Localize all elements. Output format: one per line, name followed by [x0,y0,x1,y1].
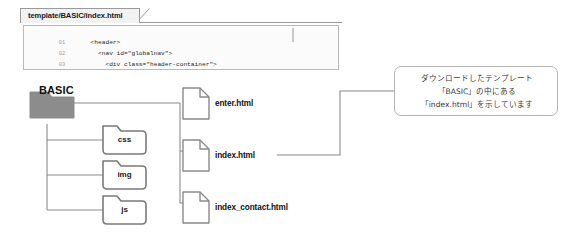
folder-label-css: css [103,135,146,144]
callout-leader-line [277,91,394,155]
code-line: 03 <div class="header-container"> [24,48,338,59]
file-label-enter-html: enter.html [215,99,253,108]
code-line: 04 <h1 class="logo"><a href="index.html"… [24,59,338,70]
folder-label-js: js [103,205,146,214]
callout-line-1: ダウンロードしたテンプレート [421,73,533,85]
callout-box: ダウンロードしたテンプレート 「BASIC」の中にある 「index.html」… [394,66,558,116]
file-icon-index-contact-html [183,192,209,223]
code-file-tab[interactable]: template/BASIC/index.html [20,8,140,23]
code-line: 02 <nav id="globalnav"> [24,37,338,48]
code-file-tab-label: template/BASIC/index.html [28,11,123,20]
diagram-screenshot: template/BASIC/index.html 01 <header> 02… [0,0,572,241]
folder-label-img: img [103,170,146,179]
code-panel: template/BASIC/index.html 01 <header> 02… [20,8,342,72]
callout-line-3: 「index.html」を示しています [421,99,534,111]
file-icon-index-html [183,140,209,171]
callout-text: ダウンロードしたテンプレート 「BASIC」の中にある 「index.html」… [395,67,559,117]
code-line: 01 <header> [24,26,338,37]
file-label-index-html: index.html [215,151,255,160]
tree-connector-lines [47,103,183,210]
callout-line-2: 「BASIC」の中にある [438,86,517,98]
file-label-index-contact-html: index_contact.html [215,203,288,212]
code-scrollbar[interactable] [292,28,294,42]
file-icon-enter-html [183,88,209,119]
root-folder-label: BASIC [39,84,74,96]
